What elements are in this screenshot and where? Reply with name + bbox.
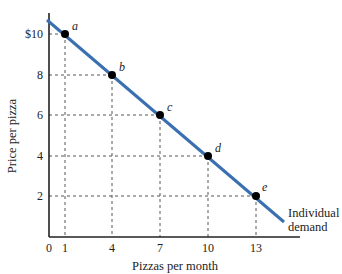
point-a	[61, 30, 69, 38]
y-tick-2: 2	[37, 189, 43, 203]
x-tick-13: 13	[250, 241, 262, 255]
point-label-b: b	[119, 60, 125, 74]
y-axis-title: Price per pizza	[5, 98, 19, 173]
point-c	[156, 111, 164, 119]
curve-label-line1: Individual	[288, 206, 340, 220]
x-tick-1: 1	[62, 241, 68, 255]
curve-label-line2: demand	[288, 220, 328, 234]
y-tick-8: 8	[37, 68, 43, 82]
point-label-c: c	[167, 100, 173, 114]
demand-chart: a b c d e $10 8 6 4 2 0 1 4 7 10 13 Pizz…	[0, 0, 342, 274]
point-b	[108, 71, 116, 79]
y-tick-10: $10	[25, 27, 43, 41]
y-tick-4: 4	[37, 149, 43, 163]
point-e	[252, 192, 260, 200]
x-tick-7: 7	[157, 241, 163, 255]
guide-lines	[49, 34, 256, 237]
point-d	[204, 152, 212, 160]
x-tick-4: 4	[109, 241, 115, 255]
point-label-a: a	[72, 19, 78, 33]
demand-line	[47, 20, 284, 222]
x-axis-title: Pizzas per month	[132, 259, 219, 273]
x-tick-10: 10	[202, 241, 214, 255]
y-tick-6: 6	[37, 108, 43, 122]
point-label-d: d	[215, 141, 222, 155]
x-tick-0: 0	[46, 241, 52, 255]
point-label-e: e	[262, 180, 268, 194]
